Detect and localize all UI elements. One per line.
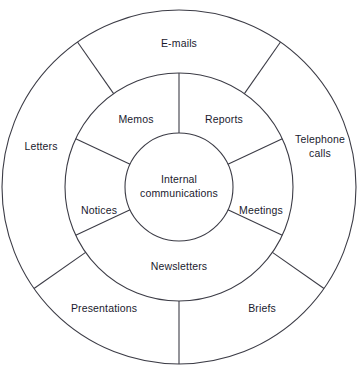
inner-segment-label-memos: Memos: [118, 113, 153, 125]
outer-segment-label-briefs: Briefs: [248, 302, 276, 314]
outer-segment-label-emails: E-mails: [161, 37, 197, 49]
wheel-diagram: Internal communications Reports Meetings…: [0, 0, 359, 377]
outer-segment-label-telephone-calls-line2: calls: [309, 147, 331, 159]
inner-segment-label-reports: Reports: [205, 113, 243, 125]
inner-segment-label-newsletters: Newsletters: [151, 260, 208, 272]
outer-divider-215: [34, 252, 86, 288]
outer-segment-label-letters: Letters: [24, 140, 57, 152]
inner-divider-25: [228, 139, 282, 164]
outer-divider-125: [78, 42, 114, 94]
outer-divider-325: [272, 252, 324, 288]
outer-segment-label-telephone-calls-line1: Telephone: [295, 133, 345, 145]
inner-segment-label-meetings: Meetings: [239, 204, 283, 216]
center-label-line2: communications: [140, 187, 218, 199]
center-label-line1: Internal: [161, 173, 197, 185]
wheel-svg: Internal communications Reports Meetings…: [0, 0, 359, 377]
inner-segment-label-notices: Notices: [81, 204, 117, 216]
inner-divider-155: [76, 139, 130, 164]
outer-divider-55: [244, 42, 280, 94]
outer-segment-label-presentations: Presentations: [71, 302, 137, 314]
center-label: Internal communications: [140, 173, 218, 199]
